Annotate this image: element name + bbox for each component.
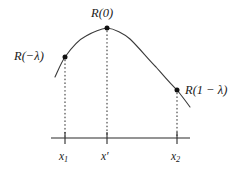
figure-container: R(−λ) R(0) R(1 − λ) x1 x′ x2	[0, 0, 241, 176]
axis-tick-label-x2: x2	[171, 151, 180, 165]
axis-tick-label-xprime: x′	[101, 151, 109, 163]
label-r-minus-lambda: R(−λ)	[14, 50, 44, 63]
label-r-zero: R(0)	[91, 7, 113, 20]
response-curve	[55, 28, 190, 107]
data-point-left	[63, 55, 68, 60]
axis-tick-label-x1: x1	[59, 151, 68, 165]
axis-tick-label-xprime-mark: ′	[106, 150, 109, 162]
axis-tick-label-x2-subscript: 2	[176, 155, 180, 164]
axis-tick-label-x1-subscript: 1	[64, 155, 68, 164]
data-point-right	[175, 88, 180, 93]
data-point-apex	[105, 26, 110, 31]
label-r-one-minus-lambda: R(1 − λ)	[185, 84, 227, 97]
